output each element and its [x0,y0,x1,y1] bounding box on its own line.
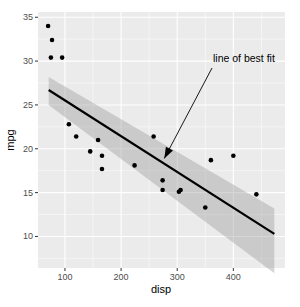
data-point [50,38,55,43]
data-point [100,153,105,158]
data-point [209,158,214,163]
y-tick-label: 20 [23,144,33,154]
data-point [132,163,137,168]
data-point [96,138,101,143]
data-point [160,178,165,183]
x-tick-label: 400 [226,272,241,282]
data-point [49,55,54,60]
y-tick-label: 10 [23,231,33,241]
y-tick-label: 15 [23,188,33,198]
data-point [160,188,165,193]
x-tick-label: 200 [114,272,129,282]
annotation-label: line of best fit [213,52,275,64]
y-tick-label: 25 [23,100,33,110]
data-point [151,134,156,139]
data-point [100,167,105,172]
data-point [60,55,65,60]
data-point [88,149,93,154]
data-point [67,122,72,127]
y-tick-label: 30 [23,56,33,66]
y-axis: 101520253035 [23,12,38,241]
data-point [74,134,79,139]
x-tick-label: 100 [57,272,72,282]
data-point [203,205,208,210]
x-axis: 100200300400 [57,268,240,282]
x-tick-label: 300 [170,272,185,282]
data-point [231,153,236,158]
y-tick-label: 35 [23,12,33,22]
y-axis-title: mpg [4,129,16,150]
data-point [46,24,51,29]
scatter-plot: line of best fit 100200300400 1015202530… [0,0,300,307]
data-point [254,192,259,197]
x-axis-title: disp [151,283,171,295]
data-point [178,188,183,193]
